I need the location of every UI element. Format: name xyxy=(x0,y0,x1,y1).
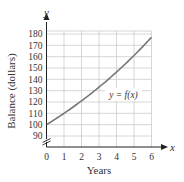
y-tick-label: 160 xyxy=(28,52,43,62)
x-tick-label: 5 xyxy=(132,152,137,162)
y-tick-label: 150 xyxy=(28,63,43,73)
y-tick-label: 170 xyxy=(28,41,43,51)
x-axis-title: Years xyxy=(87,164,112,176)
y-axis-title: Balance (dollars) xyxy=(5,53,18,129)
y-tick-label: 180 xyxy=(28,29,43,39)
y-tick-label: 120 xyxy=(28,97,43,107)
y-tick-labels: 90100110120130140150160170180 xyxy=(28,29,43,141)
x-axis-variable: x xyxy=(169,141,175,153)
y-tick-label: 110 xyxy=(29,109,43,119)
x-tick-label: 4 xyxy=(114,152,119,162)
x-tick-label: 6 xyxy=(149,152,154,162)
x-tick-label: 1 xyxy=(62,152,67,162)
chart: 0123456 90100110120130140150160170180 x … xyxy=(0,0,184,182)
y-tick-label: 130 xyxy=(28,86,43,96)
x-tick-labels: 0123456 xyxy=(44,152,154,162)
curve-label: y = f(x) xyxy=(105,88,142,101)
y-tick-label: 90 xyxy=(33,131,43,141)
x-tick-label: 3 xyxy=(97,152,102,162)
y-tick-label: 100 xyxy=(28,120,43,130)
y-axis-variable: y xyxy=(43,6,49,18)
y-tick-label: 140 xyxy=(28,75,43,85)
x-axis-arrow-icon xyxy=(161,144,168,150)
x-tick-label: 2 xyxy=(79,152,84,162)
svg-text:y = f(x): y = f(x) xyxy=(108,90,138,101)
x-tick-label: 0 xyxy=(44,152,49,162)
